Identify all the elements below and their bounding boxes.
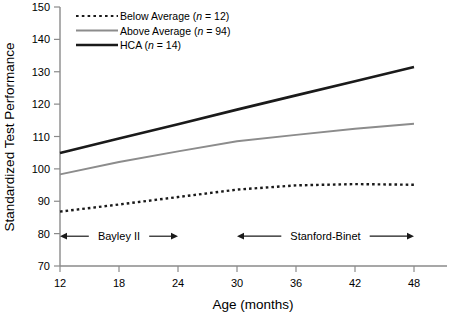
y-tick-label: 150 — [32, 1, 50, 13]
x-tick-label: 12 — [54, 277, 66, 289]
x-axis-title: Age (months) — [212, 297, 293, 312]
y-tick-label: 80 — [38, 228, 50, 240]
x-tick-label: 30 — [231, 277, 243, 289]
annotation-label: Bayley II — [98, 230, 140, 242]
legend-label-hca: HCA (n = 14) — [120, 39, 181, 51]
legend-label-below-average: Below Average (n = 12) — [120, 10, 229, 22]
legend-label-above-average: Above Average (n = 94) — [120, 25, 230, 37]
annotation-label: Stanford-Binet — [290, 230, 360, 242]
x-tick-label: 24 — [172, 277, 184, 289]
x-tick-label: 48 — [408, 277, 420, 289]
y-tick-label: 110 — [32, 131, 50, 143]
y-tick-label: 100 — [32, 163, 50, 175]
chart-background — [0, 0, 459, 318]
line-chart: 708090100110120130140150 12182430364248 … — [0, 0, 459, 318]
y-tick-label: 140 — [32, 33, 50, 45]
x-tick-label: 36 — [290, 277, 302, 289]
y-axis-title: Standardized Test Performance — [2, 43, 17, 232]
y-tick-label: 70 — [38, 260, 50, 272]
y-tick-label: 130 — [32, 66, 50, 78]
y-tick-label: 120 — [32, 98, 50, 110]
y-tick-label: 90 — [38, 195, 50, 207]
x-tick-label: 42 — [349, 277, 361, 289]
chart-figure: 708090100110120130140150 12182430364248 … — [0, 0, 459, 318]
x-tick-label: 18 — [113, 277, 125, 289]
